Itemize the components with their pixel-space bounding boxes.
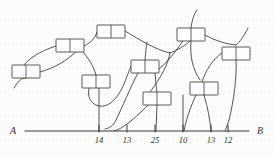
- connector-curve-e6: [125, 31, 170, 53]
- nodes-layer: [12, 25, 250, 105]
- node-n2: [56, 39, 84, 52]
- connector-curve-e1: [14, 78, 26, 88]
- node-n8: [190, 82, 218, 95]
- connector-curve-e18: [191, 41, 200, 80]
- node-n3: [97, 25, 125, 38]
- axis-tick-label-2: 25: [151, 135, 160, 145]
- axis-tick-label-3: 10: [179, 135, 188, 145]
- connector-curve-e25: [202, 53, 222, 82]
- network-diagram-svg: 141325101312AB: [0, 0, 275, 157]
- axis-label-left-a: A: [9, 125, 17, 136]
- axis-tick-label-0: 14: [95, 135, 104, 145]
- connector-curve-e14: [156, 105, 157, 131]
- connector-curve-e21: [236, 28, 248, 45]
- connector-curve-e2: [24, 46, 56, 65]
- axis-tick-label-1: 13: [123, 135, 132, 145]
- node-n4: [82, 75, 110, 88]
- node-n9: [222, 47, 250, 60]
- connector-curve-e15: [114, 105, 148, 131]
- axis-tick-label-5: 12: [224, 135, 233, 145]
- node-n5: [131, 60, 159, 73]
- node-n6: [143, 92, 171, 105]
- node-n7: [177, 28, 205, 41]
- connector-curve-e17: [205, 35, 236, 45]
- connector-curve-e7: [170, 41, 190, 53]
- axis-label-right-b: B: [257, 125, 263, 136]
- connector-curve-e4: [84, 32, 97, 46]
- node-n1: [12, 65, 40, 78]
- labels-layer: 141325101312AB: [9, 125, 263, 145]
- connector-curve-e19: [158, 41, 183, 70]
- connector-curve-e11: [145, 42, 147, 60]
- connector-curve-e24: [184, 95, 196, 131]
- connector-curve-e16: [191, 10, 197, 28]
- connector-curve-e22: [225, 60, 236, 131]
- axis-layer: [25, 125, 249, 132]
- connector-curve-e23: [204, 95, 211, 131]
- axis-tick-label-4: 13: [207, 135, 216, 145]
- figure-container: 141325101312AB: [0, 0, 275, 157]
